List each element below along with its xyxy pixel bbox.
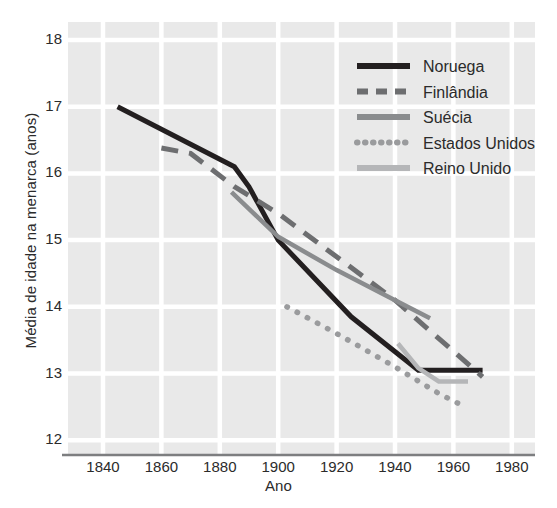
legend-label: Noruega <box>423 58 484 75</box>
y-tick-label: 18 <box>28 30 62 47</box>
x-tick-label: 1840 <box>73 458 133 475</box>
legend-label: Finlândia <box>423 84 488 101</box>
legend-label: Reino Unido <box>423 160 511 177</box>
chart-figure: NoruegaFinlândiaSuéciaEstados UnidosRein… <box>0 0 557 508</box>
x-tick-label: 1880 <box>190 458 250 475</box>
y-tick-label: 13 <box>28 364 62 381</box>
y-tick-label: 15 <box>28 230 62 247</box>
x-tick-label: 1860 <box>131 458 191 475</box>
legend-label: Suécia <box>423 109 472 126</box>
x-tick-label: 1980 <box>482 458 542 475</box>
legend-label: Estados Unidos <box>423 135 535 152</box>
y-tick-label: 14 <box>28 297 62 314</box>
y-tick-label: 17 <box>28 97 62 114</box>
y-tick-label: 16 <box>28 163 62 180</box>
line-chart-canvas: NoruegaFinlândiaSuéciaEstados UnidosRein… <box>0 0 557 508</box>
x-tick-label: 1940 <box>365 458 425 475</box>
x-tick-label: 1900 <box>248 458 308 475</box>
x-tick-label: 1920 <box>307 458 367 475</box>
y-tick-label: 12 <box>28 430 62 447</box>
x-tick-label: 1960 <box>423 458 483 475</box>
x-axis-title: Ano <box>0 477 557 494</box>
